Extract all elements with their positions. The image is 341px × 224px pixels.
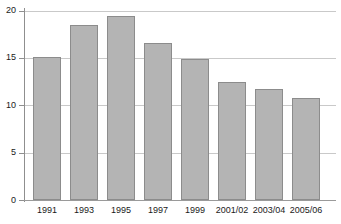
bar-1991[interactable] — [33, 57, 61, 200]
bar-1993[interactable] — [70, 25, 98, 200]
bar-2005-06[interactable] — [292, 98, 320, 200]
bar-2003-04[interactable] — [255, 89, 283, 200]
x-tick-label-1995: 1995 — [111, 205, 131, 216]
x-tick-label-1999: 1999 — [185, 205, 205, 216]
x-tick-label-2003-04: 2003/04 — [253, 205, 286, 216]
bar-1995[interactable] — [107, 16, 135, 200]
bar-chart: 20 15 10 5 0 1991 1993 1995 1997 1999 20… — [0, 0, 341, 224]
bar-1999[interactable] — [181, 59, 209, 200]
x-tick-label-2001-02: 2001/02 — [216, 205, 249, 216]
x-tick-label-1997: 1997 — [148, 205, 168, 216]
bar-2001-02[interactable] — [218, 82, 246, 200]
bars-layer: 1991 1993 1995 1997 1999 2001/02 2003/04… — [0, 0, 341, 224]
x-tick-label-1991: 1991 — [37, 205, 57, 216]
x-tick-label-2005-06: 2005/06 — [290, 205, 323, 216]
bar-1997[interactable] — [144, 43, 172, 200]
x-tick-label-1993: 1993 — [74, 205, 94, 216]
